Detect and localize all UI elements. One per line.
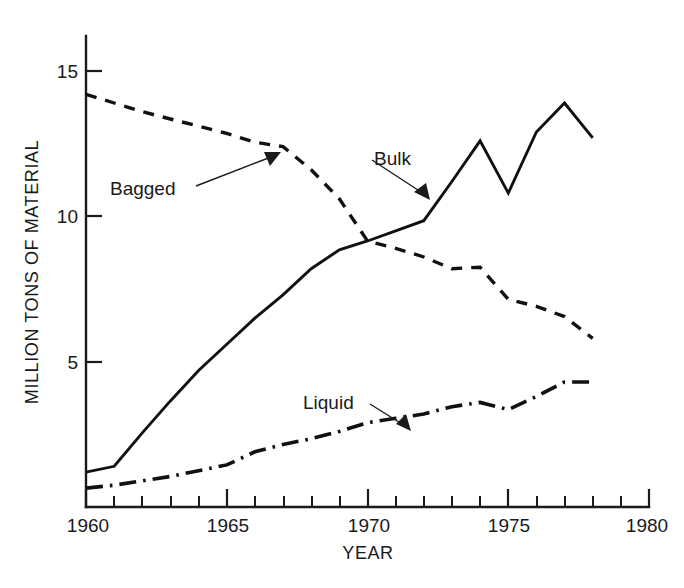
y-tick-label-15: 15	[57, 61, 78, 82]
annotation-bagged: Bagged	[110, 152, 281, 199]
series-line-bagged	[86, 94, 593, 338]
series-group	[86, 94, 593, 488]
chart-page: 15 10 5 1960 1965 1970 1975 1980 YEAR MI…	[0, 0, 684, 588]
annotation-arrow-liquid	[396, 414, 411, 431]
x-tick-label-1960: 1960	[67, 515, 109, 536]
y-tick-label-5: 5	[67, 352, 78, 373]
x-tick-label-1965: 1965	[207, 515, 249, 536]
x-axis-title: YEAR	[342, 543, 393, 563]
annotation-label-bulk: Bulk	[374, 148, 411, 169]
y-tick-label-10: 10	[57, 206, 78, 227]
annotation-label-liquid: Liquid	[303, 392, 354, 413]
line-chart: 15 10 5 1960 1965 1970 1975 1980 YEAR MI…	[0, 0, 684, 588]
y-axis-ticks	[86, 71, 102, 362]
x-tick-label-1980: 1980	[626, 515, 668, 536]
annotation-leader-bagged	[196, 157, 271, 186]
x-axis-ticks	[86, 489, 649, 507]
x-tick-label-1975: 1975	[488, 515, 530, 536]
annotation-bulk: Bulk	[372, 148, 430, 200]
x-tick-label-1970: 1970	[348, 515, 390, 536]
annotation-label-bagged: Bagged	[110, 178, 176, 199]
axis-lines	[86, 36, 649, 507]
y-axis-title: MILLION TONS OF MATERIAL	[22, 140, 42, 404]
series-line-bulk	[86, 103, 593, 472]
annotation-arrow-bulk	[414, 183, 430, 200]
